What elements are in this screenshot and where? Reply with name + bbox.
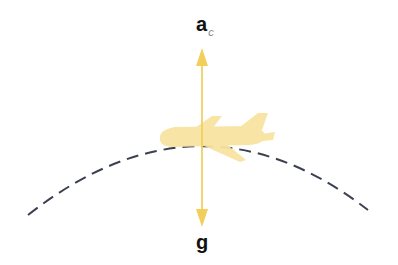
label-gravity: g <box>196 232 208 252</box>
diagram-svg <box>0 0 398 265</box>
diagram-canvas: ac g <box>0 0 398 265</box>
label-g-main: g <box>196 231 208 253</box>
label-ac-main: a <box>196 13 207 35</box>
arrow-down-icon <box>196 209 208 227</box>
dashed-arc <box>28 146 368 215</box>
label-ac-subscript: c <box>208 26 214 38</box>
label-centripetal-acceleration: ac <box>196 14 213 37</box>
airplane-icon <box>160 113 275 162</box>
arrow-up-icon <box>196 48 208 66</box>
